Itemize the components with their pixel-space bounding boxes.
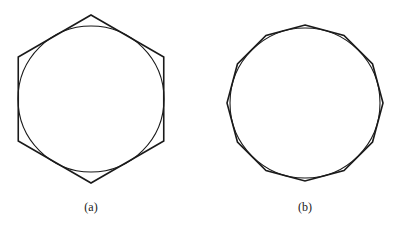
figure-b-caption: (b) xyxy=(270,200,340,214)
figure-a-caption: (a) xyxy=(56,200,126,214)
figure-canvas xyxy=(0,0,405,229)
canvas-background xyxy=(0,0,405,229)
figure-board: (a) (b) xyxy=(0,0,405,229)
